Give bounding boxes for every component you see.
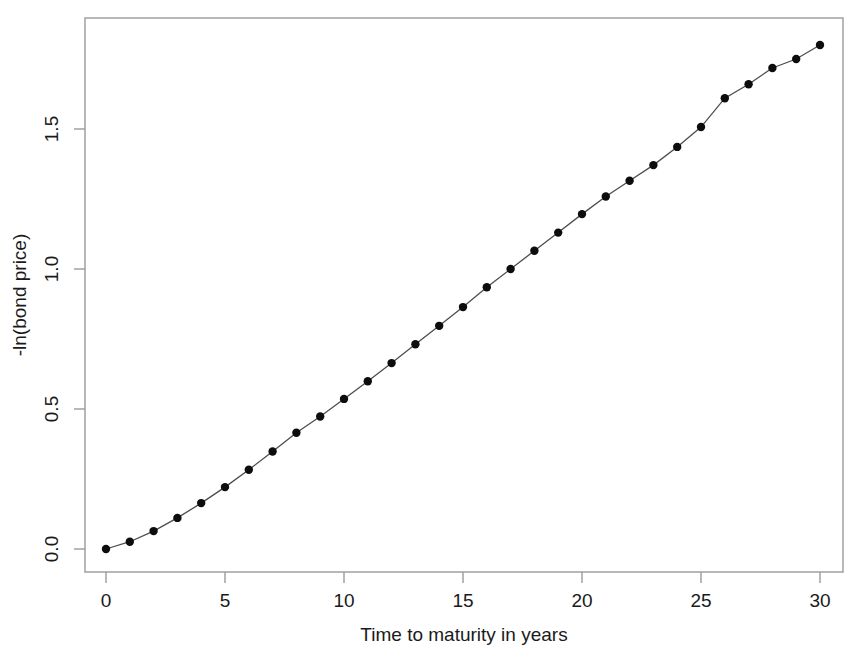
data-point bbox=[316, 412, 324, 420]
data-point bbox=[221, 483, 229, 491]
data-point bbox=[292, 429, 300, 437]
series-points bbox=[102, 41, 824, 553]
data-point bbox=[459, 303, 467, 311]
data-point bbox=[578, 210, 586, 218]
y-axis-ticks bbox=[74, 129, 85, 549]
data-point bbox=[554, 228, 562, 236]
y-tick-label: 1.5 bbox=[41, 116, 62, 142]
plot-frame bbox=[85, 18, 843, 572]
data-point bbox=[530, 247, 538, 255]
y-axis-tick-labels: 0.0 0.5 1.0 1.5 bbox=[41, 116, 62, 562]
data-point bbox=[102, 545, 110, 553]
data-point bbox=[245, 466, 253, 474]
chart-figure: 0 5 10 15 20 25 30 0.0 0.5 1.0 1.5 Time … bbox=[0, 0, 867, 659]
x-tick-label: 15 bbox=[452, 590, 473, 611]
data-series-group bbox=[102, 41, 824, 553]
x-tick-label: 0 bbox=[101, 590, 112, 611]
y-tick-label: 0.5 bbox=[41, 396, 62, 422]
data-point bbox=[721, 94, 729, 102]
data-point bbox=[126, 538, 134, 546]
y-axis-title: -ln(bond price) bbox=[9, 234, 30, 357]
x-tick-label: 30 bbox=[809, 590, 830, 611]
series-line bbox=[106, 45, 820, 549]
y-tick-label: 1.0 bbox=[41, 256, 62, 282]
x-tick-label: 20 bbox=[571, 590, 592, 611]
data-point bbox=[268, 447, 276, 455]
data-point bbox=[602, 192, 610, 200]
bond-price-chart: 0 5 10 15 20 25 30 0.0 0.5 1.0 1.5 Time … bbox=[0, 0, 867, 659]
data-point bbox=[649, 161, 657, 169]
data-point bbox=[197, 499, 205, 507]
data-point bbox=[625, 177, 633, 185]
data-point bbox=[173, 514, 181, 522]
data-point bbox=[483, 283, 491, 291]
data-point bbox=[768, 64, 776, 72]
x-axis-tick-labels: 0 5 10 15 20 25 30 bbox=[101, 590, 831, 611]
x-tick-label: 5 bbox=[220, 590, 231, 611]
data-point bbox=[340, 395, 348, 403]
x-tick-label: 10 bbox=[333, 590, 354, 611]
data-point bbox=[506, 265, 514, 273]
x-axis-ticks bbox=[106, 572, 820, 583]
data-point bbox=[816, 41, 824, 49]
data-point bbox=[387, 359, 395, 367]
data-point bbox=[673, 143, 681, 151]
data-point bbox=[149, 527, 157, 535]
data-point bbox=[744, 80, 752, 88]
data-point bbox=[792, 55, 800, 63]
data-point bbox=[697, 123, 705, 131]
data-point bbox=[435, 322, 443, 330]
x-tick-label: 25 bbox=[690, 590, 711, 611]
y-tick-label: 0.0 bbox=[41, 536, 62, 562]
data-point bbox=[364, 377, 372, 385]
data-point bbox=[411, 340, 419, 348]
x-axis-title: Time to maturity in years bbox=[360, 624, 567, 645]
